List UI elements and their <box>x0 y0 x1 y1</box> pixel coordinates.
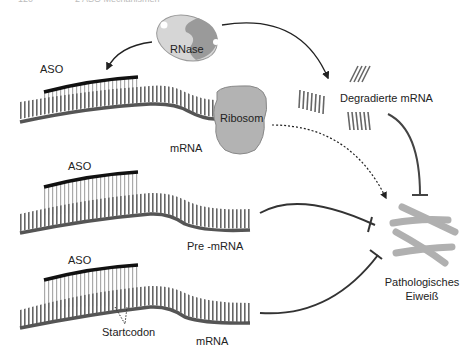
pre-mrna-label: Pre -mRNA <box>187 240 243 253</box>
diagram-canvas <box>0 0 473 358</box>
degraded-inhibit-line <box>388 114 420 195</box>
startcodon-label: Startcodon <box>102 326 155 339</box>
pre-mrna-inhibit-line <box>260 204 375 225</box>
row1-complex <box>20 77 215 122</box>
row3-complex <box>20 265 250 328</box>
degraded-mrna-label: Degradierte mRNA <box>340 92 433 105</box>
row2-complex <box>20 172 250 233</box>
mrna-label-3: mRNA <box>196 335 228 348</box>
ribosome-to-protein-arrow <box>272 125 386 198</box>
pathological-protein <box>393 207 455 263</box>
protein-label-line2: Eiweiß <box>384 290 460 303</box>
aso-label-1: ASO <box>40 63 63 76</box>
rnase-label: RNase <box>170 43 204 56</box>
mrna-label-1: mRNA <box>170 142 202 155</box>
rnase-to-degraded-arrow <box>222 23 328 78</box>
rnase-to-aso-arrow <box>107 42 152 69</box>
protein-label-line1: Pathologisches <box>384 276 460 289</box>
aso-label-2: ASO <box>68 160 91 173</box>
rnase-enzyme <box>151 7 224 68</box>
mrna-inhibit-line <box>260 255 378 313</box>
aso-label-3: ASO <box>68 254 91 267</box>
ribosome-label: Ribosom <box>220 112 263 125</box>
